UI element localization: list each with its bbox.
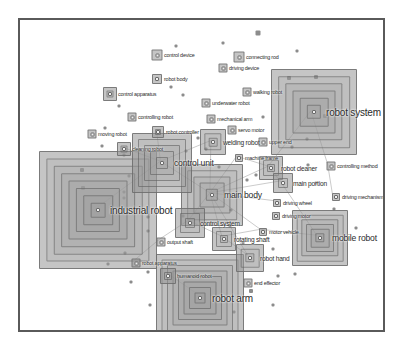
- network-node[interactable]: [219, 64, 228, 73]
- node-core: [155, 53, 159, 57]
- node-core: [198, 296, 202, 300]
- node-core: [312, 110, 316, 114]
- node-marker: [307, 164, 310, 167]
- node-core: [166, 274, 170, 278]
- network-node[interactable]: [244, 279, 253, 288]
- node-core: [122, 147, 126, 151]
- network-node[interactable]: [327, 162, 336, 171]
- node-marker: [277, 275, 280, 278]
- node-core: [245, 90, 249, 94]
- node-core: [134, 261, 138, 265]
- network-node[interactable]: [132, 133, 192, 193]
- network-node[interactable]: [88, 130, 97, 139]
- node-marker: [147, 271, 150, 274]
- network-node[interactable]: [207, 115, 216, 124]
- node-core: [269, 166, 273, 170]
- network-node[interactable]: [234, 52, 245, 63]
- node-core: [237, 156, 241, 160]
- node-core: [318, 236, 322, 240]
- network-node[interactable]: [200, 129, 226, 155]
- node-core: [96, 208, 100, 212]
- network-canvas: industrial robotrobot systemrobot armmai…: [20, 20, 383, 330]
- node-marker: [315, 182, 318, 185]
- network-node[interactable]: [132, 259, 141, 268]
- node-core: [274, 214, 278, 218]
- network-node[interactable]: [103, 87, 117, 101]
- node-core: [261, 230, 265, 234]
- node-core: [156, 130, 160, 134]
- node-core: [230, 128, 234, 132]
- network-node[interactable]: [157, 238, 166, 247]
- node-core: [222, 237, 226, 241]
- node-core: [261, 140, 265, 144]
- network-node[interactable]: [156, 254, 244, 332]
- node-core: [275, 201, 279, 205]
- node-marker: [170, 86, 173, 89]
- node-marker: [255, 174, 258, 177]
- network-node[interactable]: [152, 74, 162, 84]
- network-node[interactable]: [272, 212, 280, 220]
- node-marker: [355, 227, 358, 230]
- node-core: [237, 55, 241, 59]
- node-core: [155, 77, 159, 81]
- network-node[interactable]: [128, 113, 137, 122]
- node-marker: [249, 289, 253, 293]
- node-marker: [246, 179, 249, 182]
- node-marker: [256, 31, 261, 36]
- node-core: [108, 92, 112, 96]
- network-node[interactable]: [332, 193, 340, 201]
- network-node[interactable]: [235, 154, 243, 162]
- node-core: [159, 240, 163, 244]
- node-core: [246, 281, 250, 285]
- network-node[interactable]: [152, 126, 164, 138]
- node-marker: [222, 42, 225, 45]
- node-marker: [175, 45, 178, 48]
- node-core: [90, 132, 94, 136]
- node-core: [209, 117, 213, 121]
- network-node[interactable]: [212, 227, 236, 251]
- network-node[interactable]: [243, 88, 252, 97]
- node-marker: [101, 145, 104, 148]
- node-core: [211, 140, 215, 144]
- network-node[interactable]: [273, 173, 293, 193]
- node-core: [334, 195, 338, 199]
- node-marker: [118, 105, 121, 108]
- network-node[interactable]: [160, 268, 176, 284]
- node-marker: [272, 304, 275, 307]
- network-map-figure: industrial robotrobot systemrobot armmai…: [18, 18, 385, 332]
- node-marker: [104, 127, 107, 130]
- node-core: [160, 161, 164, 165]
- node-marker: [182, 94, 185, 97]
- network-node[interactable]: [175, 208, 205, 238]
- node-core: [221, 66, 225, 70]
- network-node[interactable]: [259, 138, 268, 147]
- network-node[interactable]: [236, 244, 264, 272]
- node-marker: [294, 273, 297, 276]
- node-core: [188, 221, 192, 225]
- node-core: [204, 101, 208, 105]
- node-core: [210, 193, 214, 197]
- node-marker: [130, 281, 133, 284]
- node-marker: [272, 248, 275, 251]
- node-marker: [149, 304, 152, 307]
- network-node[interactable]: [202, 99, 211, 108]
- network-node[interactable]: [228, 126, 237, 135]
- node-marker: [296, 50, 299, 53]
- network-node[interactable]: [259, 228, 267, 236]
- node-core: [130, 115, 134, 119]
- network-node[interactable]: [271, 69, 357, 155]
- node-core: [248, 256, 252, 260]
- node-core: [281, 181, 285, 185]
- network-node[interactable]: [152, 50, 163, 61]
- network-node[interactable]: [273, 199, 281, 207]
- network-node[interactable]: [292, 210, 348, 266]
- node-marker: [262, 116, 265, 119]
- network-node[interactable]: [117, 142, 131, 156]
- node-core: [329, 164, 333, 168]
